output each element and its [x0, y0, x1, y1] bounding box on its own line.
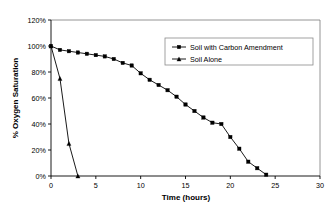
y-axis: 0%20%40%60%80%100%120% % Oxygen Saturati… [11, 16, 51, 181]
series-1-point-marker [67, 50, 70, 53]
series-1-point-marker [202, 116, 205, 119]
x-tick-label: 5 [94, 181, 98, 190]
series-1-point-marker [229, 135, 232, 138]
x-tick-label: 20 [226, 181, 234, 190]
series-1-point-marker [166, 89, 169, 92]
x-tick-label: 25 [271, 181, 279, 190]
series-1-point-marker [193, 109, 196, 112]
x-axis-tick-labels: 051015202530 [49, 181, 324, 190]
x-tick-label: 15 [182, 181, 190, 190]
series-2-point-marker [58, 76, 62, 80]
series-1-point-marker [184, 103, 187, 106]
series-1-point-marker [220, 122, 223, 125]
series-2-point-marker [67, 141, 71, 145]
x-axis: 051015202530 Time (hours) [49, 176, 324, 202]
y-axis-title: % Oxygen Saturation [11, 58, 20, 139]
y-tick-label: 0% [36, 172, 47, 181]
series-1-point-marker [58, 48, 61, 51]
series-1-point-marker [121, 61, 124, 64]
x-tick-label: 0 [49, 181, 53, 190]
y-tick-label: 20% [32, 146, 47, 155]
series-1-point-marker [94, 53, 97, 56]
series-1-point-marker [85, 52, 88, 55]
series-1-point-marker [256, 167, 259, 170]
legend-sample-marker [177, 45, 180, 48]
series-1-point-marker [76, 51, 79, 54]
x-tick-label: 30 [316, 181, 324, 190]
y-tick-label: 40% [32, 120, 47, 129]
series-1-point-marker [148, 78, 151, 81]
legend: Soil with Carbon AmendmentSoil Alone [165, 38, 313, 65]
oxygen-saturation-chart: 0%20%40%60%80%100%120% % Oxygen Saturati… [0, 0, 336, 212]
series-1-point-marker [157, 83, 160, 86]
series-2 [49, 44, 80, 178]
series-1-point-marker [265, 173, 268, 176]
y-tick-label: 80% [32, 68, 47, 77]
x-axis-title: Time (hours) [162, 193, 211, 202]
series-1-point-marker [112, 57, 115, 60]
chart-canvas: 0%20%40%60%80%100%120% % Oxygen Saturati… [0, 0, 336, 212]
series-1-point-marker [130, 64, 133, 67]
x-tick-label: 10 [137, 181, 145, 190]
series-1-point-marker [103, 55, 106, 58]
y-tick-label: 120% [28, 16, 47, 25]
series-1-point-marker [175, 95, 178, 98]
series-1-point-marker [247, 160, 250, 163]
legend-label: Soil with Carbon Amendment [190, 43, 283, 52]
series-2-line [51, 46, 78, 176]
series-1-point-marker [139, 72, 142, 75]
series-1-point-marker [211, 121, 214, 124]
y-tick-label: 60% [32, 94, 47, 103]
y-tick-label: 100% [28, 42, 47, 51]
y-axis-tick-labels: 0%20%40%60%80%100%120% [28, 16, 47, 181]
legend-label: Soil Alone [190, 55, 222, 64]
series-1-point-marker [238, 147, 241, 150]
